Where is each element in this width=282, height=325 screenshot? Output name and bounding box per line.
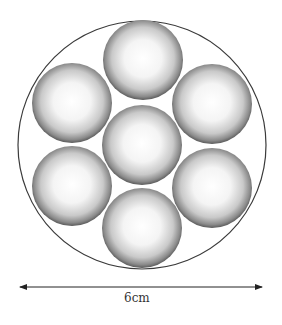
sphere-top bbox=[103, 20, 183, 100]
dimension-label: 6cm bbox=[124, 291, 150, 305]
sphere-upper-right bbox=[172, 64, 252, 144]
sphere-bottom bbox=[102, 188, 182, 268]
sphere-center bbox=[102, 105, 182, 185]
sphere-packing-diagram bbox=[0, 0, 282, 325]
sphere-lower-right bbox=[172, 148, 252, 228]
sphere-lower-left bbox=[32, 146, 112, 226]
spheres-group bbox=[32, 20, 252, 268]
sphere-upper-left bbox=[32, 63, 112, 143]
